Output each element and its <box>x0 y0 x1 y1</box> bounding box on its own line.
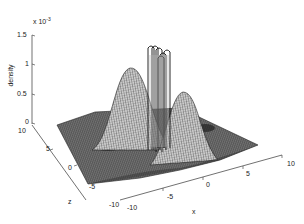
ztick-0: 0 <box>25 118 29 125</box>
z-axis-label: z <box>68 198 72 205</box>
zscale-label: x 10-3 <box>33 18 51 25</box>
ztick-1: 1 <box>25 60 29 67</box>
surface-plot <box>0 0 304 224</box>
zscale-base: x 10 <box>33 18 46 25</box>
ztick-1.5: 1.5 <box>17 31 27 38</box>
ytick-neg10: -10 <box>109 201 119 208</box>
ytick-neg5: -5 <box>89 183 95 190</box>
ytick-0: 0 <box>68 164 72 171</box>
xtick-neg10: -10 <box>127 204 137 211</box>
ytick-5: 5 <box>46 145 50 152</box>
xtick-10: 10 <box>287 160 295 167</box>
x-axis-label: x <box>192 208 196 215</box>
density-axis-label: density <box>7 64 14 86</box>
xtick-0: 0 <box>206 181 210 188</box>
xtick-5: 5 <box>246 170 250 177</box>
xtick-neg5: -5 <box>167 193 173 200</box>
zscale-exponent: -3 <box>46 16 50 22</box>
ztick-0.5: 0.5 <box>17 90 27 97</box>
ytick-10: 10 <box>18 127 26 134</box>
